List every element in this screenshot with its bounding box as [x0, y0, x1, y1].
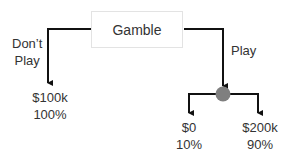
dont-play-label: Don’t Play [12, 35, 42, 69]
outcome-probability: 10% [172, 136, 206, 153]
outcome-lose: $0 10% [172, 119, 206, 153]
outcome-value: $200k [238, 119, 282, 136]
win-branch [230, 94, 258, 113]
play-branch [184, 29, 223, 86]
outcome-value: $100k [30, 89, 70, 106]
chance-node [216, 87, 231, 102]
outcome-probability: 100% [30, 106, 70, 123]
outcome-value: $0 [172, 119, 206, 136]
dont-play-branch [48, 29, 91, 83]
outcome-probability: 90% [238, 136, 282, 153]
dont-play-line2: Play [12, 52, 42, 69]
play-label: Play [231, 42, 256, 59]
dont-play-line1: Don’t [12, 35, 42, 52]
outcome-win: $200k 90% [238, 119, 282, 153]
outcome-no-play: $100k 100% [30, 89, 70, 123]
gamble-decision-box: Gamble [91, 11, 183, 48]
gamble-label: Gamble [112, 22, 161, 38]
lose-branch [189, 94, 216, 113]
